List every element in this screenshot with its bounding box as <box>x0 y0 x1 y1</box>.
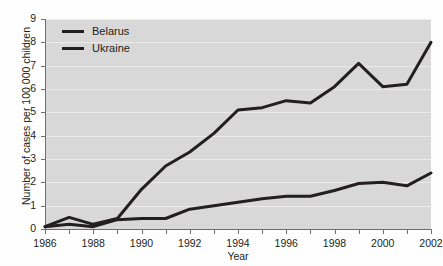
x-tick-label-2002: 2002 <box>411 237 443 249</box>
x-tick-1990 <box>142 230 143 234</box>
x-tick-label-1996: 1996 <box>266 237 306 249</box>
chart-figure: 0123456789 19861988199019921994199619982… <box>0 0 443 266</box>
y-tick-4 <box>41 136 46 137</box>
y-axis-title: Number of cases per 100 000 children <box>20 6 32 226</box>
y-tick-6 <box>41 89 46 90</box>
y-tick-5 <box>41 112 46 113</box>
y-tick-7 <box>41 66 46 67</box>
x-tick-2000 <box>383 230 384 234</box>
gridline-y-7 <box>45 66 431 67</box>
gridline-y-1 <box>45 206 431 207</box>
x-tick-1986 <box>45 230 46 234</box>
chart-legend: Belarus Ukraine <box>62 23 130 57</box>
y-tick-1 <box>41 206 46 207</box>
y-tick-8 <box>41 42 46 43</box>
x-tick-1994 <box>238 230 239 234</box>
x-tick-1991 <box>166 230 167 234</box>
y-tick-2 <box>41 182 46 183</box>
legend-swatch-ukraine <box>62 47 84 50</box>
x-tick-2001 <box>407 230 408 234</box>
legend-label-belarus: Belarus <box>92 26 129 37</box>
gridline-y-2 <box>45 182 431 183</box>
x-axis-title: Year <box>45 250 431 262</box>
x-tick-label-2000: 2000 <box>363 237 403 249</box>
x-tick-label-1988: 1988 <box>73 237 113 249</box>
legend-item-ukraine: Ukraine <box>62 40 130 57</box>
y-axis-line <box>45 19 46 230</box>
gridline-y-3 <box>45 159 431 160</box>
x-tick-1998 <box>335 230 336 234</box>
legend-swatch-belarus <box>62 30 84 33</box>
y-tick-9 <box>41 19 46 20</box>
x-tick-1988 <box>93 230 94 234</box>
x-tick-1987 <box>69 230 70 234</box>
gridline-y-9 <box>45 19 431 20</box>
legend-label-ukraine: Ukraine <box>92 43 130 54</box>
x-tick-1993 <box>214 230 215 234</box>
x-tick-1997 <box>310 230 311 234</box>
x-tick-1992 <box>190 230 191 234</box>
gridline-y-4 <box>45 136 431 137</box>
gridline-y-6 <box>45 89 431 90</box>
x-tick-1995 <box>262 230 263 234</box>
gridline-y-5 <box>45 112 431 113</box>
x-tick-label-1986: 1986 <box>25 237 65 249</box>
x-tick-label-1994: 1994 <box>218 237 258 249</box>
legend-item-belarus: Belarus <box>62 23 130 40</box>
x-tick-label-1990: 1990 <box>122 237 162 249</box>
x-tick-label-1992: 1992 <box>170 237 210 249</box>
x-tick-2002 <box>431 230 432 234</box>
x-tick-label-1998: 1998 <box>315 237 355 249</box>
y-tick-3 <box>41 159 46 160</box>
x-tick-1996 <box>286 230 287 234</box>
x-tick-1989 <box>117 230 118 234</box>
x-tick-1999 <box>359 230 360 234</box>
